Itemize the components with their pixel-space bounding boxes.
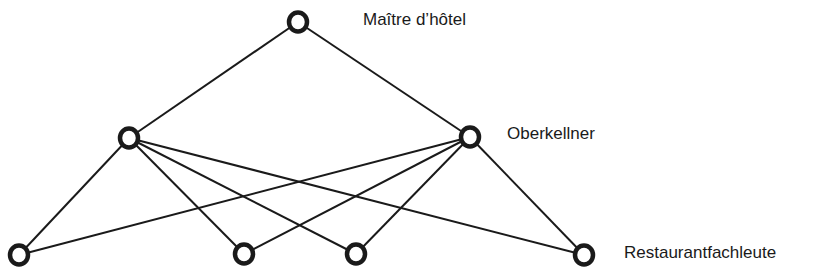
- network-graph: [0, 0, 819, 275]
- edge-m2-b2: [244, 137, 470, 254]
- label-maitre-dhotel: Maître d’hôtel: [363, 10, 466, 30]
- node-b3: [347, 245, 365, 264]
- edge-m2-b4: [470, 137, 584, 255]
- edge-m2-b3: [356, 137, 470, 254]
- node-top: [289, 13, 307, 32]
- edge-m1-b1: [19, 138, 129, 255]
- label-oberkellner: Oberkellner: [507, 124, 595, 144]
- edge-top-m2: [298, 22, 470, 137]
- node-m1: [120, 129, 138, 148]
- node-b4: [575, 246, 593, 265]
- node-m2: [461, 128, 479, 147]
- node-b2: [235, 245, 253, 264]
- label-restaurantfachleute: Restaurantfachleute: [624, 243, 776, 263]
- edge-top-m1: [129, 22, 298, 138]
- org-diagram: Maître d’hôtel Oberkellner Restaurantfac…: [0, 0, 819, 275]
- node-b1: [10, 246, 28, 265]
- edge-m1-b2: [129, 138, 244, 254]
- edge-m2-b1: [19, 137, 470, 255]
